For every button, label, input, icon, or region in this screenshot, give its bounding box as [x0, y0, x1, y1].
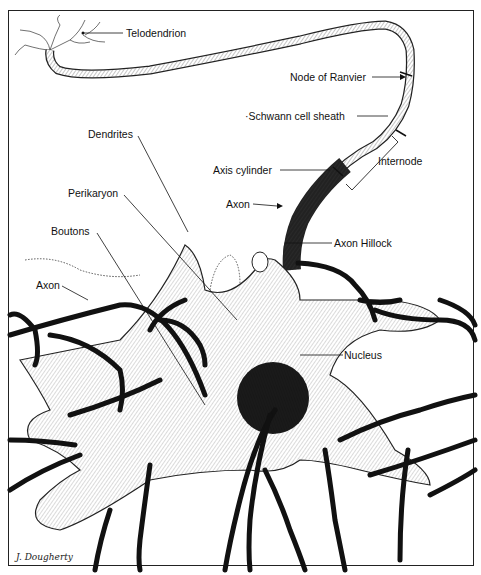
label-perikaryon: Perikaryon: [68, 187, 118, 199]
artist-signature: J. Dougherty: [16, 552, 73, 562]
label-axon-left: Axon: [36, 279, 60, 291]
label-axon-top: Axon: [226, 198, 250, 210]
neuron-illustration: [0, 0, 481, 575]
label-node-of-ranvier: Node of Ranvier: [290, 71, 366, 83]
label-axis-cylinder: Axis cylinder: [213, 164, 272, 176]
myelinated-axon: [50, 25, 411, 265]
telodendrion-branches: [15, 15, 105, 55]
label-internode: Internode: [378, 155, 422, 167]
label-axon-hillock: Axon Hillock: [334, 237, 392, 249]
label-schwann-cell-sheath: ·Schwann cell sheath: [245, 110, 345, 122]
label-nucleus: Nucleus: [344, 349, 382, 361]
label-dendrites: Dendrites: [88, 128, 133, 140]
label-boutons: Boutons: [51, 225, 90, 237]
label-telodendrion: Telodendrion: [126, 27, 186, 39]
